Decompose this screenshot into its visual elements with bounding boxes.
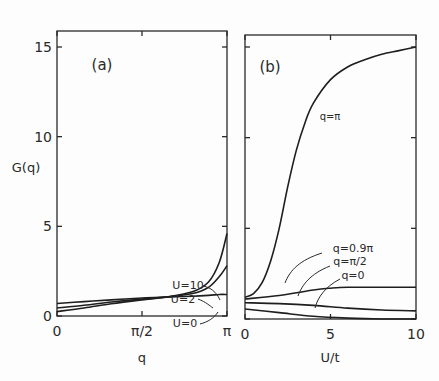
y-tick-label: 5 [43, 218, 52, 234]
axes-frame [57, 31, 227, 316]
x-axis-label: U/t [321, 350, 340, 365]
arrow-icon [285, 253, 322, 283]
arrow-icon [198, 299, 213, 308]
series-line [245, 303, 416, 311]
x-tick-label: π/2 [131, 323, 153, 339]
x-tick-label: 0 [241, 326, 250, 342]
y-axis-label: G(q) [12, 160, 40, 175]
x-tick-label: 5 [326, 326, 335, 342]
panel-label: (b) [259, 58, 280, 76]
annotation-q-pi: q=π [320, 111, 341, 122]
y-tick-label: 0 [43, 308, 52, 324]
annotation-q-0: q=0 [341, 269, 364, 282]
panel-label: (a) [92, 56, 113, 74]
annotation-u10: U=10 [172, 279, 203, 292]
y-tick-label: 10 [34, 129, 52, 145]
annotation-q-pi2: q=π/2 [333, 255, 367, 268]
annotation-q-09pi: q=0.9π [333, 242, 374, 255]
annotation-u2: U=2 [171, 293, 195, 306]
x-tick-label: π [223, 323, 232, 339]
panel-a [57, 31, 227, 316]
chart-svg: 0510150π/2π(a)q0510(b)U/tG(q)U=10U=2U=0q… [0, 0, 439, 381]
arrow-icon [315, 279, 340, 308]
figure: 0510150π/2π(a)q0510(b)U/tG(q)U=10U=2U=0q… [0, 0, 439, 381]
arrow-icon [200, 312, 218, 324]
x-tick-label: 10 [407, 326, 425, 342]
y-tick-label: 15 [34, 39, 52, 55]
annotation-u0: U=0 [173, 317, 197, 330]
x-axis-label: q [138, 350, 146, 365]
panel-b [245, 35, 416, 319]
series-line [245, 287, 416, 299]
x-tick-label: 0 [53, 323, 62, 339]
series-line [57, 234, 227, 312]
axes-frame [245, 35, 416, 319]
series-line [245, 47, 416, 297]
